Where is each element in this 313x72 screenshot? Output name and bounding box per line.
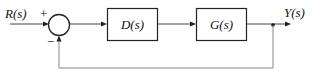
controller-input-arrowhead-icon bbox=[101, 22, 107, 27]
minus-sign: − bbox=[47, 34, 54, 49]
output-label: Y(s) bbox=[284, 5, 305, 20]
block-diagram: R(s) + − D(s) G(s) Y(s) bbox=[0, 0, 313, 72]
plant-label: G(s) bbox=[210, 17, 233, 32]
feedback-arrowhead-icon bbox=[57, 36, 62, 42]
summing-junction bbox=[49, 15, 70, 36]
input-label: R(s) bbox=[4, 6, 27, 21]
output-arrowhead-icon bbox=[285, 22, 291, 27]
plant-input-arrowhead-icon bbox=[190, 22, 196, 27]
controller-label: D(s) bbox=[120, 17, 144, 32]
plus-sign: + bbox=[40, 6, 47, 21]
